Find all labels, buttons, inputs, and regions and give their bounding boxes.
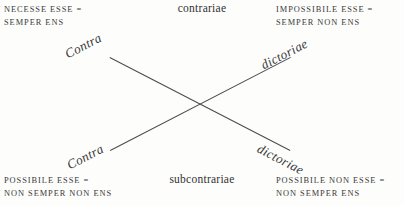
- corner-label-top-right-line2: SEMPER NON ENS: [276, 16, 373, 29]
- diagonal-label-upper-left: Contra: [62, 30, 104, 62]
- diagonal-label-upper-right: dictoriae: [258, 36, 310, 73]
- corner-label-bottom-left: POSSIBILE ESSE = NON SEMPER NON ENS: [4, 174, 112, 200]
- diagonal-label-lower-left: Contra: [64, 141, 106, 173]
- corner-label-top-left-line2: SEMPER ENS: [4, 16, 82, 29]
- corner-label-top-left: NECESSE ESSE = SEMPER ENS: [4, 3, 82, 29]
- corner-label-top-right: IMPOSSIBILE ESSE = SEMPER NON ENS: [276, 3, 373, 29]
- corner-label-bottom-right: POSSIBILE NON ESSE = NON SEMPER ENS: [276, 174, 385, 200]
- square-of-opposition-figure: contrariae subcontrariae NECESSE ESSE = …: [0, 0, 404, 206]
- corner-label-top-right-line1: IMPOSSIBILE ESSE =: [276, 3, 373, 16]
- corner-label-bottom-left-line2: NON SEMPER NON ENS: [4, 187, 112, 200]
- corner-label-bottom-right-line1: POSSIBILE NON ESSE =: [276, 174, 385, 187]
- corner-label-bottom-left-line1: POSSIBILE ESSE =: [4, 174, 112, 187]
- corner-label-top-left-line1: NECESSE ESSE =: [4, 3, 82, 16]
- corner-label-bottom-right-line2: NON SEMPER ENS: [276, 187, 385, 200]
